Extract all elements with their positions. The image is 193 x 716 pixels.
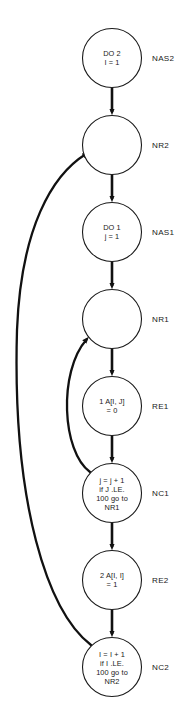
node-nr1[interactable] bbox=[83, 290, 142, 349]
node-text-nas2: DO 2 I = 1 bbox=[103, 49, 121, 67]
node-text-nas1: DO 1 j = 1 bbox=[103, 223, 121, 241]
node-label-nc2: NC2 bbox=[152, 663, 169, 672]
node-text-line: DO 2 bbox=[103, 49, 121, 58]
node-text-line: if J .LE. bbox=[99, 485, 125, 494]
node-text-line: 1 A[I, J] bbox=[99, 397, 125, 406]
node-label-re1: RE1 bbox=[152, 402, 169, 411]
node-text-line: NR1 bbox=[104, 503, 119, 512]
node-text-line: I = 1 bbox=[104, 58, 119, 67]
node-label-nas2: NAS2 bbox=[152, 54, 175, 63]
node-text-line: 100 go to bbox=[96, 668, 128, 677]
node-text-line: if I .LE. bbox=[100, 659, 124, 668]
node-text-line: = 1 bbox=[107, 580, 118, 589]
node-label-nas1: NAS1 bbox=[152, 228, 175, 237]
node-label-nr2: NR2 bbox=[152, 141, 169, 150]
node-label-re2: RE2 bbox=[152, 576, 169, 585]
flowchart-diagram: DO 2 I = 1 DO 1 j = 1 1 A[I, J] = 0 j = … bbox=[0, 0, 193, 716]
node-text-line: NR2 bbox=[104, 677, 119, 686]
node-label-nc1: NC1 bbox=[152, 489, 169, 498]
node-text-line: 2 A[I, I] bbox=[100, 571, 124, 580]
node-text-line: DO 1 bbox=[103, 223, 121, 232]
node-text-line: 100 go to bbox=[96, 494, 128, 503]
node-text-line: j = j + 1 bbox=[98, 476, 124, 485]
node-text-line: = 0 bbox=[107, 406, 118, 415]
node-label-nr1: NR1 bbox=[152, 315, 169, 324]
node-nr2[interactable] bbox=[83, 116, 142, 175]
node-text-line: j = 1 bbox=[104, 232, 120, 241]
edge-nc2-to-nr2-feedback bbox=[17, 154, 91, 645]
node-text-line: I = I + 1 bbox=[99, 650, 125, 659]
